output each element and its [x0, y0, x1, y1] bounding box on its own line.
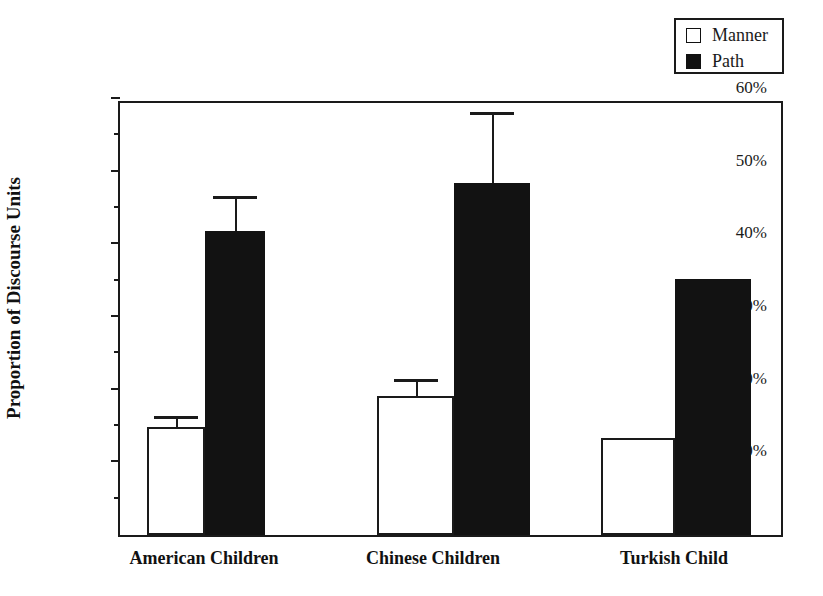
bar-manner-chinese-children	[377, 396, 454, 535]
x-axis-label-turkish-child: Turkish Child	[620, 548, 728, 569]
hollow-square-icon	[686, 28, 701, 43]
y-tick-minor	[114, 206, 120, 208]
filled-square-icon	[686, 54, 701, 69]
error-bar-stem	[416, 382, 418, 396]
bar-path-american-children	[205, 231, 265, 535]
error-bar-cap	[213, 196, 257, 199]
error-bar-stem	[235, 199, 237, 232]
legend-item-manner: Manner	[676, 22, 782, 48]
y-tick-major	[111, 315, 120, 317]
y-tick-major	[111, 97, 120, 99]
error-bar-stem	[176, 419, 178, 428]
y-tick-minor	[114, 497, 120, 499]
y-tick-label: 60%	[736, 78, 767, 98]
bar-path-turkish-child	[675, 279, 751, 535]
error-bar-stem	[492, 115, 494, 183]
y-tick-minor	[114, 133, 120, 135]
bar-chart: Manner Path Proportion of Discourse Unit…	[0, 0, 823, 596]
y-tick-major	[111, 388, 120, 390]
chart-legend: Manner Path	[674, 18, 784, 74]
y-tick-minor	[114, 279, 120, 281]
legend-item-path: Path	[676, 48, 782, 74]
y-tick-minor	[114, 424, 120, 426]
y-tick-major	[111, 460, 120, 462]
legend-label-path: Path	[712, 52, 744, 70]
y-tick-major	[111, 170, 120, 172]
error-bar-cap	[154, 416, 198, 419]
y-axis-title: Proportion of Discourse Units	[3, 177, 25, 419]
y-tick-label: 40%	[736, 223, 767, 243]
legend-label-manner: Manner	[712, 26, 768, 44]
error-bar-cap	[394, 379, 438, 382]
plot-area: 60%50%40%30%20%10%	[118, 101, 783, 537]
bar-manner-american-children	[147, 427, 205, 535]
y-tick-minor	[114, 351, 120, 353]
error-bar-cap	[470, 112, 514, 115]
x-axis-label-chinese-children: Chinese Children	[366, 548, 500, 569]
y-tick-label: 50%	[736, 151, 767, 171]
bar-manner-turkish-child	[601, 438, 675, 535]
x-axis-label-american-children: American Children	[129, 548, 278, 569]
y-tick-major	[111, 242, 120, 244]
bar-path-chinese-children	[454, 183, 530, 535]
